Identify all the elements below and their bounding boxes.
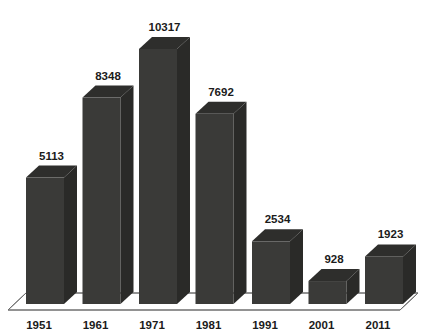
bar-front-face xyxy=(365,256,403,304)
bar-column xyxy=(309,269,360,304)
bar-front-face xyxy=(196,114,234,304)
x-axis-category-label: 1961 xyxy=(83,319,109,331)
bar-side-face xyxy=(234,102,247,304)
bar-value-label: 928 xyxy=(324,253,344,265)
bar-column xyxy=(83,86,134,304)
bar-column xyxy=(26,166,77,304)
bar-front-face xyxy=(252,241,290,304)
x-axis-category-label: 2001 xyxy=(309,319,335,331)
bar-front-face xyxy=(139,49,177,304)
bar-chart: 5113834810317769225349281923 19511961197… xyxy=(0,0,426,334)
x-axis-category-label: 1981 xyxy=(196,319,222,331)
bar-front-face xyxy=(309,281,347,304)
bar-column xyxy=(139,37,190,304)
bar-value-label: 7692 xyxy=(208,86,234,98)
bar-front-face xyxy=(26,178,64,304)
bar-value-label: 10317 xyxy=(149,21,181,33)
x-axis-category-label: 1971 xyxy=(139,319,165,331)
bar-front-face xyxy=(83,98,121,304)
bar-column xyxy=(365,244,416,304)
bar-side-face xyxy=(177,37,190,304)
x-axis-category-label: 1951 xyxy=(26,319,52,331)
bar-value-label: 2534 xyxy=(265,213,291,225)
bar-side-face xyxy=(64,166,77,304)
bar-value-label: 5113 xyxy=(39,150,64,162)
bar-value-label: 1923 xyxy=(378,228,404,240)
bar-value-label: 8348 xyxy=(95,70,121,82)
bar-column xyxy=(252,229,303,304)
chart-canvas: 5113834810317769225349281923 19511961197… xyxy=(0,0,426,334)
bar-side-face xyxy=(121,86,134,304)
x-axis-category-label: 1991 xyxy=(252,319,278,331)
bar-side-face xyxy=(290,229,303,304)
x-axis-category-label: 2011 xyxy=(366,319,392,331)
bar-column xyxy=(196,102,247,304)
